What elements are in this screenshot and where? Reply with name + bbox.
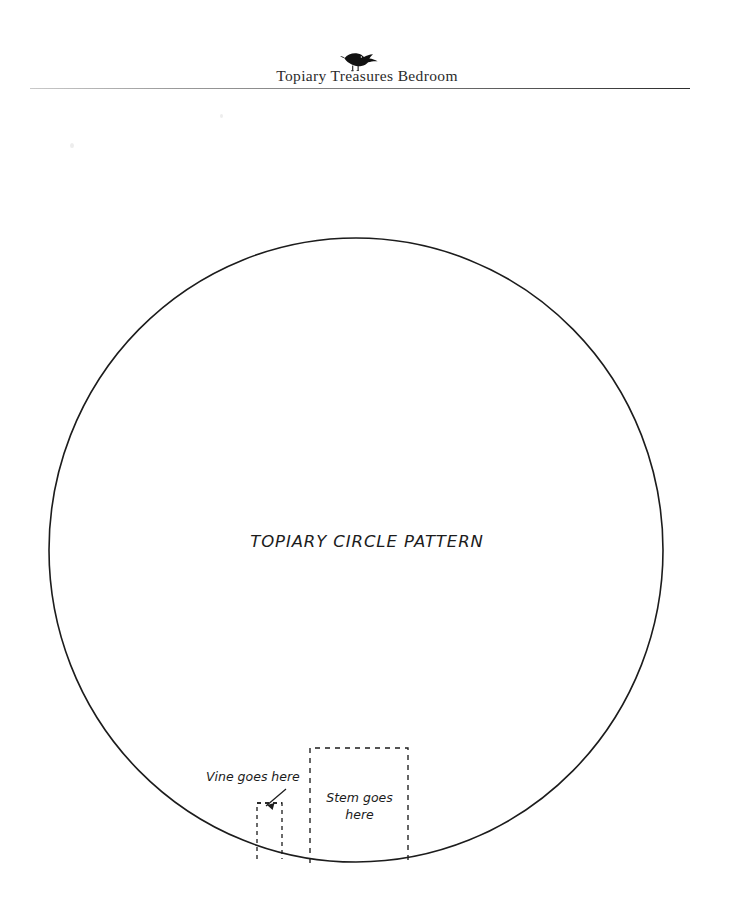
pattern-page: Topiary Treasures Bedroom TOPIAR <box>0 0 734 913</box>
vine-annotation-label: Vine goes here <box>206 769 300 784</box>
stem-annotation-line-2: here <box>311 806 408 823</box>
vine-placement-box <box>257 803 282 859</box>
pattern-canvas: TOPIARY CIRCLE PATTERN Vine goes here St… <box>0 0 734 913</box>
stem-annotation-line-1: Stem goes <box>311 789 408 806</box>
stem-annotation-label: Stem goes here <box>311 789 408 823</box>
pattern-center-label: TOPIARY CIRCLE PATTERN <box>0 532 734 551</box>
vine-pointer-arrow <box>266 789 286 810</box>
